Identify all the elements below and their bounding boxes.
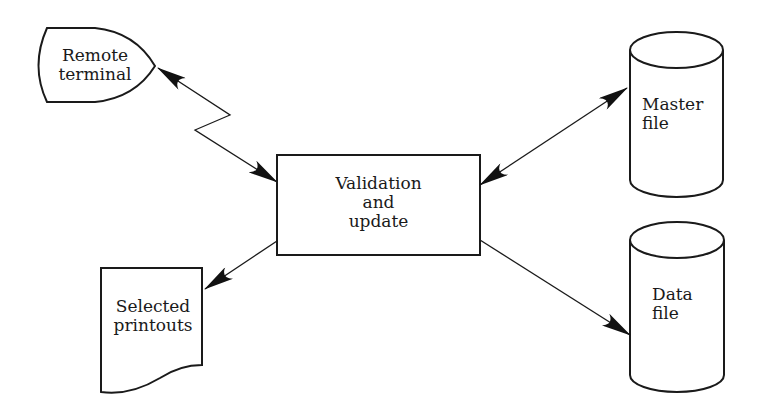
arrow-process-datafile	[480, 240, 630, 335]
arrow-process-printouts	[205, 241, 277, 289]
remote-terminal-line1: Remote	[50, 46, 140, 65]
data-file-label: Data file	[652, 285, 693, 323]
master-file-label: Master file	[642, 95, 703, 133]
process-line2: and	[277, 193, 480, 212]
data-file-line1: Data	[652, 285, 693, 304]
master-file-line1: Master	[642, 95, 703, 114]
arrow-master-process	[480, 88, 627, 185]
remote-terminal-line2: terminal	[50, 65, 140, 84]
printouts-line2: printouts	[104, 316, 202, 335]
process-line1: Validation	[277, 174, 480, 193]
arrow-terminal-process	[158, 68, 277, 182]
printouts-label: Selected printouts	[104, 297, 202, 335]
data-file-line2: file	[652, 304, 693, 323]
master-file-line2: file	[642, 114, 703, 133]
process-label: Validation and update	[277, 174, 480, 231]
process-line3: update	[277, 212, 480, 231]
printouts-line1: Selected	[104, 297, 202, 316]
remote-terminal-label: Remote terminal	[50, 46, 140, 84]
